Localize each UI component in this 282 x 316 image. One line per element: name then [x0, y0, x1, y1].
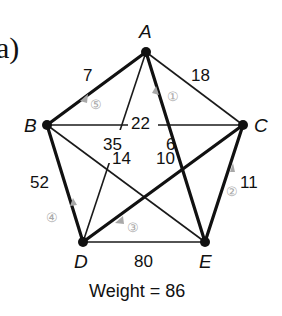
weight-D-E: 80 [134, 252, 153, 271]
edge-A-C [146, 52, 243, 125]
node-label-A: A [138, 21, 152, 42]
step-marker-2: ② [226, 184, 238, 199]
weight-C-D: 10 [156, 149, 175, 168]
step-marker-4: ④ [46, 210, 58, 225]
node-E [200, 237, 210, 247]
node-C [238, 120, 248, 130]
step-marker-1: ① [167, 89, 179, 104]
node-label-E: E [199, 251, 212, 272]
step-marker-3: ③ [127, 220, 139, 235]
weight-B-C: 22 [131, 114, 150, 133]
weight-A-C: 18 [191, 66, 210, 85]
weight-B-D: 52 [30, 173, 49, 192]
node-D [78, 237, 88, 247]
node-label-B: B [24, 115, 37, 136]
weight-A-B: 7 [83, 66, 92, 85]
panel-label: a) [0, 31, 19, 65]
weight-C-E: 11 [240, 173, 258, 192]
node-B [42, 120, 52, 130]
graph-diagram: a) ⑤ ① ② ③ ④ 7 [0, 0, 282, 316]
node-label-C: C [254, 115, 268, 136]
node-label-D: D [74, 251, 88, 272]
total-weight-caption: Weight = 86 [89, 281, 185, 301]
step-marker-5: ⑤ [90, 97, 102, 112]
node-A [141, 47, 151, 57]
weight-B-E: 14 [112, 149, 131, 168]
